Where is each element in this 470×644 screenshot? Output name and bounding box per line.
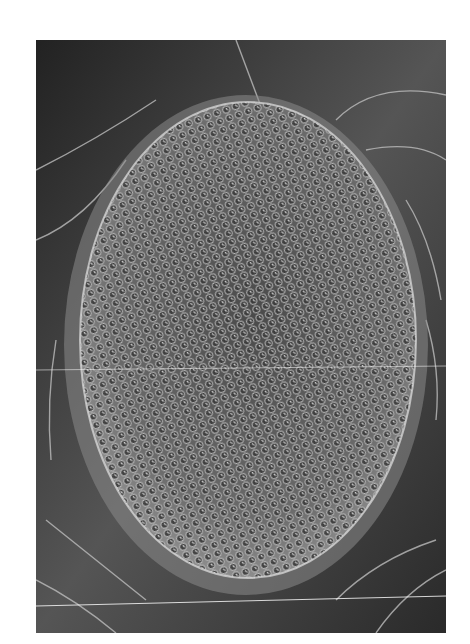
compound-eye-illustration [36, 40, 446, 633]
ommatidia-lattice [80, 102, 416, 578]
sem-eye-photo [36, 40, 446, 633]
